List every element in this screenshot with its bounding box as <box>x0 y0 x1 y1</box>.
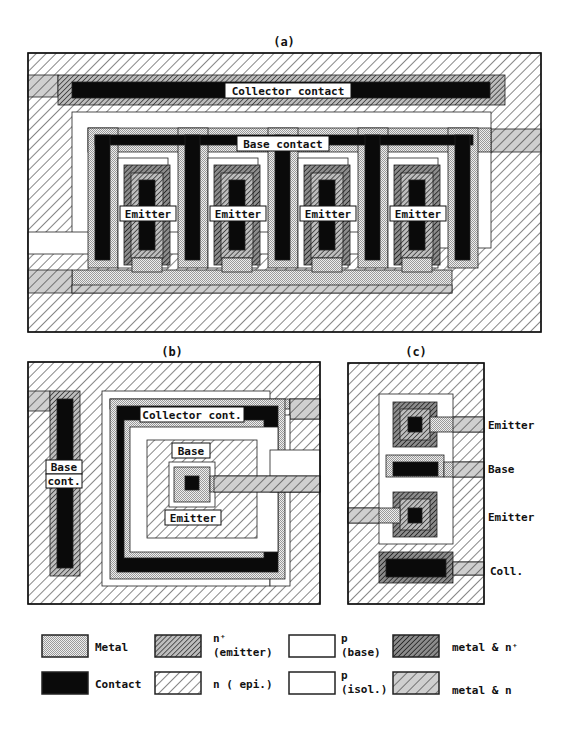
panel-b-ring-transistor: (b)Collector cont.BaseEmitterBasecont. <box>28 345 320 604</box>
legend-item-metaln: metal & n <box>393 672 512 697</box>
legend-label: (isol.) <box>341 683 387 696</box>
panel-caption: (c) <box>405 345 427 359</box>
legend-item-contact: Contact <box>42 672 141 694</box>
region-label: Emitter <box>395 208 442 221</box>
metal-layer <box>222 258 252 272</box>
legend-label: n⁺ <box>213 632 226 645</box>
contact-window <box>95 135 110 260</box>
legend-label: p <box>341 632 348 645</box>
legend-swatch <box>289 635 335 657</box>
terminal-label: Emitter <box>488 511 535 524</box>
contact-window <box>408 508 422 523</box>
contact-window <box>185 135 200 260</box>
legend: MetalContactn⁺(emitter)n ( epi.)p(base)p… <box>42 632 518 697</box>
region-label: cont. <box>47 475 80 488</box>
legend-swatch <box>393 672 439 694</box>
panel-caption: (a) <box>273 35 295 49</box>
region-label: Base contact <box>243 138 322 151</box>
metal-layer <box>402 258 432 272</box>
panel-caption: (b) <box>161 345 183 359</box>
legend-label: metal & n⁺ <box>452 641 518 654</box>
legend-label: Metal <box>95 641 128 654</box>
metal-over-n <box>348 508 379 523</box>
legend-swatch <box>289 672 335 694</box>
metal-over-n <box>453 417 484 432</box>
terminal-label: Emitter <box>488 419 535 432</box>
legend-swatch <box>42 635 88 657</box>
contact-window <box>275 135 290 260</box>
legend-swatch <box>42 672 88 694</box>
region-label: Emitter <box>215 208 262 221</box>
terminal-label: Base <box>488 463 515 476</box>
legend-item-p: p(isol.) <box>289 669 387 696</box>
metal-layer <box>312 258 342 272</box>
legend-item-n: n ( epi.) <box>155 672 273 694</box>
terminal-label: Coll. <box>490 565 523 578</box>
legend-label: (base) <box>341 646 381 659</box>
metal-over-n <box>453 562 484 575</box>
legend-swatch <box>155 635 201 657</box>
region-label: Base <box>51 461 78 474</box>
bjt-layout-figure: (a)Collector contactBase contactEmitterE… <box>0 0 569 730</box>
contact-window <box>393 462 438 476</box>
legend-item-p: p(base) <box>289 632 381 659</box>
region-label: Collector cont. <box>142 409 241 422</box>
legend-label: (emitter) <box>213 646 273 659</box>
metal-over-n <box>491 129 541 152</box>
metal-over-n <box>290 399 320 419</box>
contact-window <box>365 135 380 260</box>
region-label: Emitter <box>125 208 172 221</box>
metal-over-n <box>28 391 50 411</box>
metal-over-n <box>28 75 58 97</box>
contact-window <box>408 417 422 432</box>
metal-over-n <box>214 476 320 492</box>
legend-item-metal: Metal <box>42 635 128 657</box>
legend-label: metal & n <box>452 684 512 697</box>
contact-window <box>455 135 470 260</box>
legend-item-metalnplus: metal & n⁺ <box>393 635 518 657</box>
legend-label: p <box>341 669 348 682</box>
region-label: Emitter <box>170 512 217 525</box>
metal-over-n <box>72 285 452 293</box>
contact-window <box>386 559 446 577</box>
legend-label: n ( epi.) <box>213 678 273 691</box>
region-label: Base <box>178 445 205 458</box>
legend-item-nplus: n⁺(emitter) <box>155 632 273 659</box>
legend-swatch <box>393 635 439 657</box>
metal-over-n <box>453 462 484 477</box>
panel-c-multi-emitter-transistor: (c)EmitterBaseEmitterColl. <box>348 345 535 604</box>
contact-window <box>185 476 199 490</box>
legend-label: Contact <box>95 678 141 691</box>
metal-layer <box>132 258 162 272</box>
metal-over-n <box>28 270 72 293</box>
legend-swatch <box>155 672 201 694</box>
region-label: Emitter <box>305 208 352 221</box>
panel-a-interdigitated-transistor: (a)Collector contactBase contactEmitterE… <box>28 35 541 332</box>
region-label: Collector contact <box>232 85 345 98</box>
